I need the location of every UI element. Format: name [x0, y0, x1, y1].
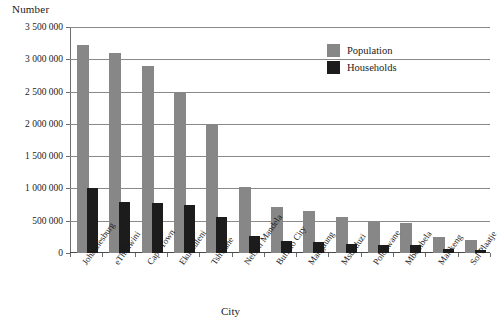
y-axis-tick [66, 59, 70, 60]
y-axis-tick-label: 1 000 000 [25, 183, 63, 193]
y-axis-tick [66, 156, 70, 157]
x-axis-tick [135, 253, 136, 257]
gridline [70, 124, 490, 125]
x-axis-tick [425, 253, 426, 257]
legend-swatch-population [327, 44, 340, 57]
x-axis-tick [328, 253, 329, 257]
bar-chart: Number 3 500 0003 000 0002 500 0002 000 … [0, 0, 501, 332]
y-axis-title: Number [12, 3, 49, 15]
y-axis-tick-label: 3 500 000 [25, 22, 63, 32]
y-axis-tick-label: 2 500 000 [25, 87, 63, 97]
gridline [70, 188, 490, 189]
y-axis-tick [66, 124, 70, 125]
legend-label-households: Households [347, 62, 397, 73]
legend-item-households: Households [327, 61, 397, 74]
gridline [70, 92, 490, 93]
legend-item-population: Population [327, 44, 397, 57]
y-axis-tick [66, 221, 70, 222]
y-axis-tick-label: 3 000 000 [25, 54, 63, 64]
y-axis-tick [66, 27, 70, 28]
y-axis-tick-label: 1 500 000 [25, 151, 63, 161]
x-axis-tick [296, 253, 297, 257]
x-axis-tick [102, 253, 103, 257]
y-axis-line [70, 27, 71, 253]
y-axis-tick-label: 500 000 [32, 216, 63, 226]
x-axis-tick [199, 253, 200, 257]
x-axis-tick [490, 253, 491, 257]
y-axis-tick [66, 92, 70, 93]
gridline [70, 27, 490, 28]
gridline [70, 156, 490, 157]
legend-label-population: Population [347, 45, 393, 56]
gridline [70, 59, 490, 60]
x-axis-tick [232, 253, 233, 257]
x-axis-tick [167, 253, 168, 257]
y-axis-tick [66, 188, 70, 189]
x-axis-tick [264, 253, 265, 257]
chart-legend: Population Households [327, 44, 397, 74]
x-axis-tick [70, 253, 71, 257]
y-axis-tick-label: 0 [58, 248, 63, 258]
x-axis-tick [361, 253, 362, 257]
legend-swatch-households [327, 61, 340, 74]
y-axis-tick-label: 2 000 000 [25, 119, 63, 129]
x-axis-title: City [221, 305, 240, 317]
x-axis-tick [458, 253, 459, 257]
x-axis-tick [393, 253, 394, 257]
